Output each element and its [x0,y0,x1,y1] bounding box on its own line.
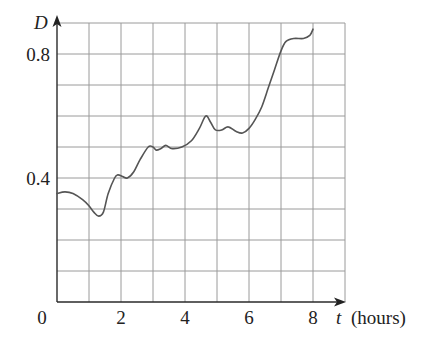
x-axis-variable: t [336,307,342,328]
x-tick-labels: 02468 [37,307,318,328]
y-tick-label: 0.4 [26,168,50,189]
y-tick-labels: 0.40.8 [26,44,50,189]
x-tick-label: 6 [244,307,254,328]
x-axis-label: t (hours) [336,307,406,329]
y-tick-label: 0.8 [26,44,50,65]
x-tick-label: 4 [180,307,190,328]
x-tick-label: 0 [37,307,47,328]
line-chart: 02468 0.40.8 D t (hours) [0,0,422,337]
axes [53,15,347,307]
x-axis-unit: (hours) [351,307,406,329]
x-tick-label: 8 [308,307,318,328]
y-axis-label: D [33,12,48,33]
grid [57,23,345,302]
x-tick-label: 2 [116,307,126,328]
